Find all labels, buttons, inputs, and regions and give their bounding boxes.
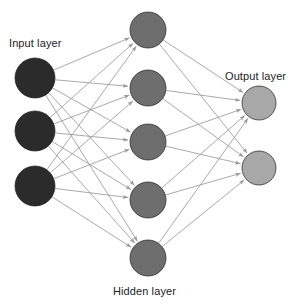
connection-edge <box>46 95 137 241</box>
hidden-layer-label: Hidden layer <box>113 285 176 298</box>
edges-input-to-hidden <box>46 38 137 247</box>
connection-edge <box>162 116 245 188</box>
connection-edge <box>49 146 135 243</box>
neural-network-diagram: Input layer Hidden layer Output layer <box>0 0 296 305</box>
hidden-node-3 <box>130 124 166 160</box>
hidden-node-1 <box>130 12 166 48</box>
input-node-3 <box>15 166 55 206</box>
connection-edge <box>166 146 240 163</box>
connection-edge <box>53 142 131 190</box>
connection-edge <box>162 180 244 246</box>
output-node-2 <box>242 151 276 185</box>
connection-edge <box>160 44 247 153</box>
output-node-1 <box>242 86 276 120</box>
input-layer-label: Input layer <box>9 37 61 50</box>
connection-edge <box>159 118 248 243</box>
connection-edge <box>54 95 129 124</box>
connection-edge <box>52 197 131 247</box>
input-node-2 <box>15 111 55 151</box>
hidden-layer-nodes <box>130 12 166 276</box>
hidden-node-2 <box>130 70 166 106</box>
input-node-1 <box>15 58 55 98</box>
output-layer-label: Output layer <box>225 70 286 83</box>
connection-edge <box>55 189 128 198</box>
connection-edge <box>54 149 129 178</box>
connection-edge <box>54 38 130 70</box>
hidden-node-4 <box>130 182 166 218</box>
connection-edge <box>163 40 243 92</box>
hidden-node-5 <box>130 240 166 276</box>
connection-edge <box>50 101 132 172</box>
input-layer-nodes <box>15 58 55 206</box>
output-layer-nodes <box>242 86 276 185</box>
